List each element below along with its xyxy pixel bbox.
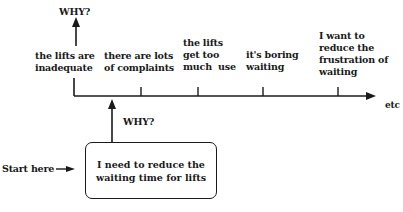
step-label-4: it's boring waiting [246,49,299,73]
top-why-label: WHY? [59,6,90,18]
axis-end-label: etc [385,99,400,111]
step-label-5: I want to reduce the frustration of wait… [319,30,388,78]
step-label-2: there are lots of complaints [104,50,174,74]
top-why-arrow-icon [72,17,80,27]
mid-why-arrow-icon [108,99,116,109]
step-label-1: the lifts are inadequate [35,50,95,74]
start-arrow-icon [66,166,75,172]
start-here-label: Start here [2,163,54,175]
start-box: I need to reduce the waiting time for li… [85,142,217,199]
start-box-text: I need to reduce the waiting time for li… [86,158,216,184]
mid-why-label: WHY? [123,116,154,128]
step-label-3: the lifts get too much use [183,37,236,73]
axis-arrow-icon [366,92,376,100]
